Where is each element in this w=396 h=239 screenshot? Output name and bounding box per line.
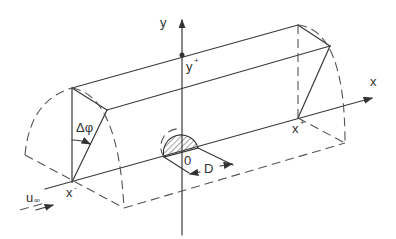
domain-top-edge — [72, 25, 298, 88]
dimension-arrow-right — [220, 164, 232, 166]
left-bottom-edge — [25, 155, 124, 208]
x-minus-sup: - — [74, 183, 77, 192]
right-diagonal — [298, 46, 330, 118]
angle-label: Δφ — [76, 120, 93, 135]
left-inner-arc — [72, 88, 124, 208]
angle-arc — [72, 140, 90, 144]
y-plus-label: y — [186, 59, 193, 74]
y-plus-point — [180, 53, 185, 58]
right-top-chord — [298, 25, 330, 46]
bottom-back-edge — [124, 143, 345, 208]
y-plus-sup: + — [194, 56, 199, 65]
origin-label: 0 — [184, 153, 191, 168]
domain-front-edge — [107, 46, 330, 110]
diameter-label: D — [204, 161, 213, 176]
left-top-chord — [72, 88, 107, 110]
x-plus-sup: + — [300, 118, 305, 127]
cylinder-section — [163, 135, 198, 157]
right-bottom-edge — [298, 118, 345, 143]
domain-diagram: y x y + x - x + Δφ 0 D u ∞ — [0, 0, 396, 239]
freestream-sub: ∞ — [34, 196, 40, 205]
x-minus-label: x — [66, 185, 73, 200]
x-axis-label: x — [370, 74, 377, 89]
dimension-arrow-left — [190, 172, 200, 174]
x-plus-label: x — [292, 121, 299, 136]
left-outer-arc — [25, 88, 72, 155]
freestream-arrow — [36, 205, 53, 210]
right-arc — [298, 25, 345, 143]
y-axis-label: y — [160, 15, 167, 30]
freestream-label: u — [26, 190, 33, 205]
